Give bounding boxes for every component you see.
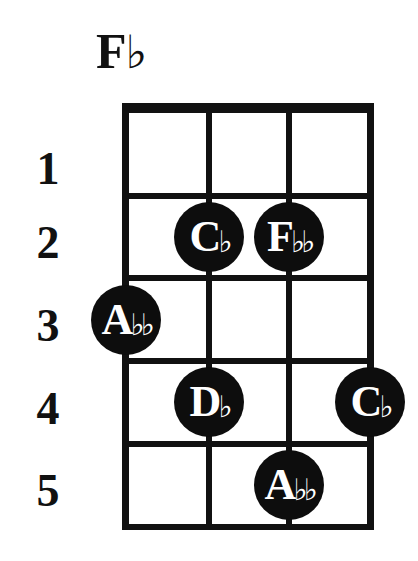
note-letter: D <box>190 380 219 424</box>
note-dot: D♭ <box>174 367 244 437</box>
fret-line <box>122 358 374 364</box>
fret-line <box>122 193 374 199</box>
note-letter: A <box>264 463 293 507</box>
note-accidental: ♭♭ <box>291 227 311 257</box>
note-dot: A♭♭ <box>254 450 324 520</box>
note-accidental: ♭ <box>218 227 228 257</box>
fret-line <box>122 275 374 281</box>
note-accidental: ♭ <box>218 392 228 422</box>
string-line <box>206 103 212 530</box>
note-dot: A♭♭ <box>91 285 161 355</box>
nut <box>122 103 374 113</box>
note-accidental: ♭♭ <box>130 310 150 340</box>
note-letter: C <box>190 215 219 259</box>
note-dot: C♭ <box>335 367 405 437</box>
note-letter: A <box>101 298 130 342</box>
note-dot: F♭♭ <box>254 202 324 272</box>
string-line <box>367 103 374 530</box>
fret-line <box>122 524 374 530</box>
note-letter: F <box>267 215 291 259</box>
note-letter: C <box>351 380 380 424</box>
note-accidental: ♭♭ <box>293 475 313 505</box>
fretboard-grid <box>0 0 418 561</box>
note-accidental: ♭ <box>379 392 389 422</box>
note-dot: C♭ <box>174 202 244 272</box>
fret-line <box>122 441 374 447</box>
